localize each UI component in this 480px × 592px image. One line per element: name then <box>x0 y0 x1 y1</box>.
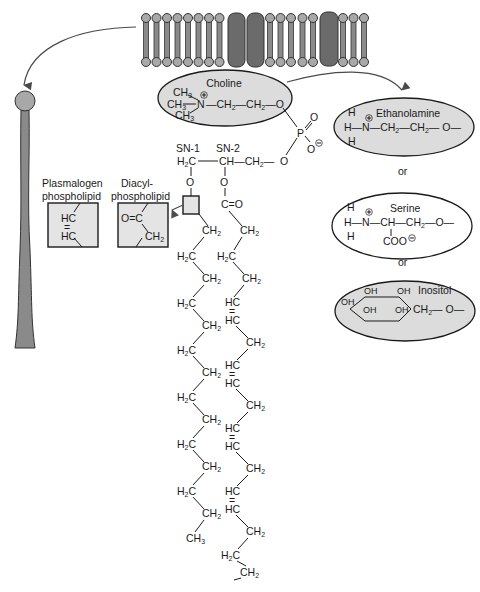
membrane-protein <box>320 12 338 66</box>
svg-text:H2C: H2C <box>177 438 197 451</box>
sn2-label: SN-2 <box>216 142 240 154</box>
svg-text:—CH2—CH2—O: —CH2—CH2—O <box>206 98 284 111</box>
svg-text:OH: OH <box>363 305 377 315</box>
plasmalogen-label: Plasmalogen <box>42 177 103 189</box>
lipid-group-middle <box>266 14 318 67</box>
svg-text:H: H <box>347 201 355 213</box>
serine-headgroup: Serine H H—N—CH—CH2—O— H COO <box>332 193 472 259</box>
svg-text:CH2: CH2 <box>240 224 259 237</box>
sn2-carbonyl: C=O <box>221 198 243 210</box>
headgroup-alternatives-arrow <box>287 72 402 90</box>
svg-text:H2C: H2C <box>177 250 197 263</box>
svg-text:CH2: CH2 <box>242 272 261 285</box>
svg-text:CH2: CH2 <box>246 336 265 349</box>
nitrogen-atom: N <box>197 98 205 110</box>
svg-text:HC: HC <box>225 440 241 452</box>
svg-text:OH: OH <box>397 286 411 296</box>
svg-text:CH2: CH2 <box>202 460 221 473</box>
plasmalogen-panel: Plasmalogen phospholipid HC = HC <box>42 177 103 247</box>
membrane-bilayer <box>142 12 369 67</box>
svg-text:H2C: H2C <box>177 391 197 404</box>
svg-text:CH2— O—: CH2— O— <box>413 303 465 316</box>
svg-text:OH: OH <box>364 286 378 296</box>
plasmalogen-hc-bottom: HC <box>61 230 77 242</box>
lipid-group-right <box>339 14 369 67</box>
svg-text:H—N—CH—CH2—O—: H—N—CH—CH2—O— <box>344 216 455 229</box>
choline-headgroup: Choline CH3 CH3 CH3 N —CH2—CH2—O <box>158 70 292 126</box>
svg-text:O: O <box>220 176 228 188</box>
svg-text:CH2: CH2 <box>202 413 221 426</box>
svg-text:H: H <box>348 106 356 118</box>
svg-text:CH2: CH2 <box>202 272 221 285</box>
svg-text:HC: HC <box>225 314 241 326</box>
phosphorus-atom: P <box>297 127 304 139</box>
svg-text:CH2: CH2 <box>240 566 259 579</box>
svg-text:CH2: CH2 <box>202 507 221 520</box>
svg-text:H: H <box>347 230 355 242</box>
svg-text:HC: HC <box>225 377 241 389</box>
ethanolamine-label: Ethanolamine <box>376 107 440 119</box>
membrane-protein <box>247 13 264 67</box>
or-text-1: or <box>398 165 408 177</box>
glycerol-backbone: SN-1 SN-2 H2C CH—CH2— O O <box>176 142 275 196</box>
inositol-headgroup: Inositol OH OH OH OH OH CH2— O— <box>335 281 475 341</box>
svg-text:CH3: CH3 <box>186 532 205 545</box>
inositol-label: Inositol <box>418 284 451 296</box>
phospholipid-diagram: Choline CH3 CH3 CH3 N —CH2—CH2—O P O O O… <box>0 0 480 592</box>
svg-text:H2C: H2C <box>177 155 197 168</box>
svg-text:HC: HC <box>225 503 241 515</box>
plasmalogen-label-2: phospholipid <box>42 190 101 202</box>
carboxylate: COO <box>383 235 407 247</box>
serine-label: Serine <box>390 202 421 214</box>
diacyl-panel: Diacyl- phospholipid O=C CH2 <box>111 177 170 247</box>
svg-text:H2C: H2C <box>221 549 241 562</box>
svg-text:CH2: CH2 <box>246 399 265 412</box>
svg-text:CH—CH2—: CH—CH2— <box>219 155 275 168</box>
sn1-fatty-acid-chain: CH2 H2C CH2 H2C CH2 H2C CH2 H2C CH2 H2C … <box>177 214 221 545</box>
svg-text:O: O <box>280 155 288 167</box>
svg-text:O: O <box>186 176 194 188</box>
ethanolamine-headgroup: Ethanolamine H H—N—CH2—CH2— O— H <box>334 98 474 156</box>
svg-text:CH2: CH2 <box>202 224 221 237</box>
svg-text:O: O <box>307 143 315 155</box>
sn1-label: SN-1 <box>176 142 200 154</box>
svg-text:H2C: H2C <box>177 297 197 310</box>
svg-text:H—N—CH2—CH2— O—: H—N—CH2—CH2— O— <box>344 121 461 134</box>
svg-text:H2C: H2C <box>177 344 197 357</box>
svg-text:H: H <box>348 135 356 147</box>
membrane-protein <box>228 13 245 67</box>
diacyl-label-2: phospholipid <box>111 190 170 202</box>
svg-text:H2C: H2C <box>177 485 197 498</box>
svg-text:CH2: CH2 <box>246 462 265 475</box>
lipid-group-left <box>142 14 225 67</box>
sn1-linkage-box <box>183 196 199 214</box>
svg-text:O: O <box>310 111 318 123</box>
svg-text:H2C: H2C <box>217 250 237 263</box>
zoom-arrow-to-lipid <box>24 27 136 85</box>
diacyl-carbonyl: O=C <box>121 212 143 224</box>
linkage-arrow <box>172 205 183 210</box>
phosphate-group: P O O O <box>280 108 322 167</box>
svg-text:CH2: CH2 <box>202 366 221 379</box>
diacyl-label: Diacyl- <box>121 177 154 189</box>
or-text-2: or <box>398 256 408 268</box>
polar-head-circle <box>15 91 35 111</box>
svg-text:OH: OH <box>341 297 355 307</box>
svg-text:CH2: CH2 <box>246 525 265 538</box>
sn2-fatty-acid-chain: CH2 H2C CH2 HC = HC CH2 HC = HC CH2 HC =… <box>217 211 265 580</box>
single-phospholipid <box>15 91 35 348</box>
choline-label: Choline <box>206 77 242 89</box>
svg-text:CH2: CH2 <box>202 319 221 332</box>
svg-text:OH: OH <box>395 305 409 315</box>
